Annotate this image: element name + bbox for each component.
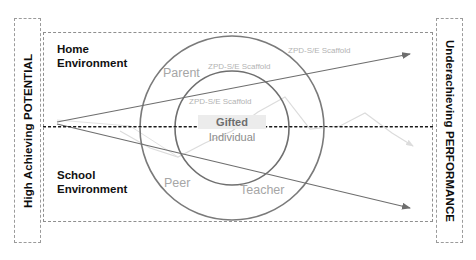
- ring-label-teacher: Teacher: [240, 183, 284, 197]
- center-label-individual: Individual: [192, 131, 272, 143]
- ring-label-peer: Peer: [164, 176, 190, 190]
- scaffold-label-middle: ZPD-S/E Scaffold: [208, 62, 271, 71]
- diagram-canvas: High Achieving POTENTIAL Underachieving …: [0, 0, 476, 260]
- scaffold-label-inner: ZPD-S/E Scaffold: [189, 97, 252, 106]
- diagram-artwork: [0, 0, 476, 260]
- scaffold-label-outer: ZPD-S/E Scaffold: [288, 46, 351, 55]
- ring-label-parent: Parent: [163, 66, 200, 80]
- center-label-gifted: Gifted: [198, 115, 266, 129]
